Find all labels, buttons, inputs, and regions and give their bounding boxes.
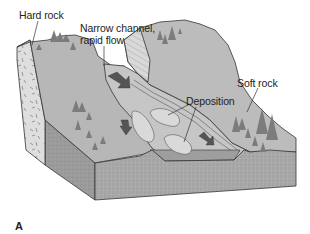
river-block-diagram [0, 0, 310, 234]
label-hard-rock: Hard rock [19, 9, 64, 21]
label-soft-rock: Soft rock [237, 77, 278, 89]
label-narrow-channel-line2: rapid flow [80, 34, 124, 46]
label-narrow-channel-line1: Narrow channel, [80, 22, 155, 34]
panel-label: A [15, 220, 23, 232]
label-deposition: Deposition [186, 95, 235, 107]
